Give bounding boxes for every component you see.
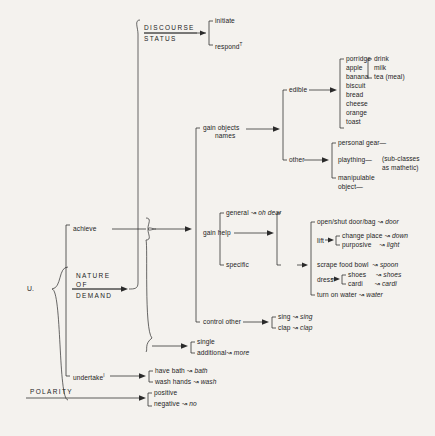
option-achieve[interactable]: achieve — [73, 225, 96, 233]
gain-objects-bracket — [283, 90, 287, 160]
specific-item-open-shut[interactable]: open/shut door/bag ↝ door — [317, 218, 399, 226]
specific-item-dress[interactable]: dress — [317, 276, 334, 284]
other-arrowhead — [322, 157, 329, 163]
realization-change-place: down — [392, 232, 408, 239]
specific-item-scrape-food-bowl[interactable]: scrape food bowl ↝ spoon — [317, 261, 398, 269]
specific-item-scrape-label: scrape food bowl — [317, 261, 368, 268]
control-other-sing-label: sing — [278, 313, 291, 320]
gain-help-arrowhead — [267, 230, 274, 236]
option-specific[interactable]: specific — [226, 261, 249, 269]
other-item-plaything[interactable]: plaything— — [338, 156, 372, 164]
specific-item-turn-on-water[interactable]: turn on water ↝ water — [317, 291, 383, 299]
undertake-have-bath-label: have bath — [155, 367, 185, 374]
specific-items-bracket — [311, 222, 315, 295]
undertake-arrowhead — [139, 373, 146, 379]
arrow-sing: ↝ — [292, 313, 298, 320]
realization-sing: sing — [300, 313, 313, 320]
control-other-clap[interactable]: clap ↝ clap — [278, 324, 313, 332]
lift-sub-bracket — [336, 236, 340, 245]
arrow-general: ↝ — [251, 209, 257, 216]
achieve-number-bracket — [191, 342, 195, 353]
edible-subset-tea[interactable]: tea (meal) — [374, 73, 405, 81]
option-gain-help[interactable]: gain help — [203, 229, 231, 237]
specific-item-water-label: turn on water — [317, 291, 357, 298]
option-single[interactable]: single — [197, 338, 215, 346]
option-undertake-label: undertake — [73, 374, 103, 381]
edible-item-orange[interactable]: orange — [346, 109, 367, 117]
option-respond-label: respond — [215, 43, 240, 50]
realization-scrape: spoon — [380, 261, 398, 268]
nature-of-demand-arrowhead — [121, 286, 128, 292]
edible-item-banana[interactable]: banana — [346, 73, 369, 81]
undertake-wash-hands-label: wash hands — [155, 378, 191, 385]
realization-general: oh dear — [258, 209, 281, 216]
edible-subset-milk[interactable]: milk — [374, 64, 386, 72]
achieve-number-brace — [146, 240, 152, 352]
discourse-status-arrowhead — [200, 30, 206, 35]
lift-sub-change-place[interactable]: change place ↝ down — [342, 232, 408, 240]
edible-subset-drink[interactable]: drink — [374, 55, 389, 63]
edible-item-porridge[interactable]: porridge — [346, 55, 371, 63]
arrow-clap: ↝ — [292, 324, 298, 331]
edible-item-biscuit[interactable]: biscuit — [346, 82, 365, 90]
control-other-sing[interactable]: sing ↝ sing — [278, 313, 313, 321]
edible-item-bread[interactable]: bread — [346, 91, 363, 99]
other-note-line2: as mathetic) — [382, 164, 419, 172]
option-edible[interactable]: edible — [289, 86, 307, 94]
specific-item-lift[interactable]: lift — [317, 237, 324, 245]
lift-sub-change-place-label: change place — [342, 232, 382, 239]
polarity-negative-label: negative — [154, 400, 180, 407]
realization-shoes: shoes — [383, 271, 401, 278]
nature-of-demand-bracket — [66, 225, 70, 376]
arrow-water: ↝ — [359, 291, 365, 298]
achieve-simultaneous-arrowhead — [185, 226, 192, 232]
other-item-manipulable-line2: object— — [338, 183, 363, 191]
option-initiate[interactable]: initiate — [215, 17, 235, 25]
edible-items-bracket — [340, 59, 344, 128]
realization-have-bath: bath — [194, 367, 207, 374]
undertake-have-bath[interactable]: have bath ↝ bath — [155, 367, 208, 375]
edible-item-cheese[interactable]: cheese — [346, 100, 368, 108]
option-additional[interactable]: additional↝ more — [197, 349, 249, 357]
dress-arrowhead — [334, 277, 340, 282]
polarity-arrowhead — [139, 395, 146, 401]
other-item-personal-gear[interactable]: personal gear— — [338, 139, 386, 147]
undertake-bracket — [149, 371, 153, 382]
dress-sub-cardi-label: cardi — [348, 280, 363, 287]
lift-sub-purposive[interactable]: purposive ↝ light — [342, 241, 399, 249]
dress-sub-cardi[interactable]: cardi ↝ cardi — [348, 280, 397, 288]
control-other-arrowhead — [262, 319, 269, 325]
realization-open-shut: door — [385, 218, 399, 225]
arrow-wash-hands: ↝ — [193, 378, 199, 385]
discourse-status-bracket — [209, 21, 213, 45]
option-undertake[interactable]: undertakeI — [73, 372, 105, 382]
arrow-shoes: ↝ — [376, 271, 382, 278]
option-respond[interactable]: respondT — [215, 41, 242, 51]
undertake-wash-hands[interactable]: wash hands ↝ wash — [155, 378, 217, 386]
option-control-other[interactable]: control other — [203, 318, 241, 326]
lift-arrowhead — [328, 238, 334, 243]
arrow-negative: ↝ — [182, 400, 188, 407]
realization-negative: no — [189, 400, 197, 407]
entry-point-label: U. — [27, 285, 34, 293]
option-general-label: general — [226, 209, 249, 216]
dress-sub-shoes[interactable]: shoes ↝ shoes — [348, 271, 401, 279]
specific-item-open-shut-label: open/shut door/bag — [317, 218, 376, 225]
option-additional-label: additional — [197, 349, 226, 356]
option-other[interactable]: other — [289, 156, 305, 164]
realization-additional: more — [234, 349, 249, 356]
arrow-open-shut: ↝ — [378, 218, 384, 225]
edible-item-apple[interactable]: apple — [346, 64, 363, 72]
option-gain-objects-line1[interactable]: gain objects — [203, 124, 239, 132]
arrow-scrape: ↝ — [372, 261, 378, 268]
polarity-positive[interactable]: positive — [154, 389, 177, 397]
arrow-purposive: ↝ — [379, 241, 385, 248]
arrow-cardi: ↝ — [374, 280, 380, 287]
realization-clap: clap — [300, 324, 313, 331]
edible-item-toast[interactable]: toast — [346, 118, 361, 126]
other-items-bracket — [332, 143, 336, 178]
option-general[interactable]: general ↝ oh dear — [226, 209, 281, 217]
other-item-manipulable[interactable]: manipulable — [338, 174, 375, 182]
polarity-negative[interactable]: negative ↝ no — [154, 400, 197, 408]
gain-help-options-bracket — [277, 213, 281, 265]
